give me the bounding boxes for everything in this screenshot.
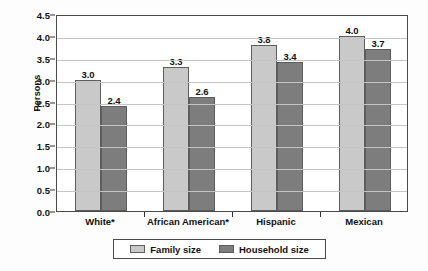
legend-item-family-size: Family size <box>130 244 201 255</box>
gridline <box>57 104 407 105</box>
x-axis-tick-mark <box>232 212 233 217</box>
y-axis-tick-mark <box>50 36 55 37</box>
x-axis-tick-mark <box>320 212 321 217</box>
gridline <box>57 191 407 192</box>
y-axis-tick-label: 3.0 <box>20 75 50 86</box>
gridline <box>57 82 407 83</box>
bar-household-size <box>101 106 127 211</box>
legend-swatch-household-size <box>219 245 234 253</box>
bar-family-size <box>251 45 277 211</box>
legend-item-household-size: Household size <box>219 244 309 255</box>
bars-layer: 3.02.43.32.63.83.44.03.7 <box>57 16 407 211</box>
y-axis-tick-mark <box>50 146 55 147</box>
gridline <box>57 38 407 39</box>
bar-household-size <box>277 62 303 211</box>
x-axis-tick-label: White* <box>85 216 115 227</box>
bar-value-label: 3.7 <box>371 38 384 49</box>
y-axis-tick-label: 2.0 <box>20 119 50 130</box>
y-axis-tick-mark <box>50 212 55 213</box>
y-axis-tick-label: 0.0 <box>20 207 50 218</box>
gridline <box>57 125 407 126</box>
legend-swatch-family-size <box>130 245 145 253</box>
x-axis-tick-label: African American* <box>147 216 229 227</box>
y-axis-tick-mark <box>50 124 55 125</box>
y-axis-tick-label: 4.5 <box>20 10 50 21</box>
legend-label-family-size: Family size <box>150 244 201 255</box>
x-axis-tick-mark <box>144 212 145 217</box>
bar-value-label: 2.6 <box>195 86 208 97</box>
bar-family-size <box>163 67 189 211</box>
bar-value-label: 3.3 <box>169 56 182 67</box>
y-axis-tick-label: 0.5 <box>20 185 50 196</box>
y-axis-tick-label: 4.0 <box>20 31 50 42</box>
bar-value-label: 4.0 <box>345 25 358 36</box>
y-axis-tick-labels: 0.00.51.01.52.02.53.03.54.04.5 <box>20 15 50 212</box>
y-axis-tick-mark <box>50 190 55 191</box>
y-axis-tick-mark <box>50 15 55 16</box>
gridline <box>57 147 407 148</box>
y-axis-tick-mark <box>50 168 55 169</box>
y-axis-tick-label: 3.5 <box>20 53 50 64</box>
y-axis-tick-label: 2.5 <box>20 97 50 108</box>
gridline <box>57 169 407 170</box>
legend-label-household-size: Household size <box>239 244 309 255</box>
x-axis-tick-label: Mexican <box>345 216 383 227</box>
y-axis-tick-label: 1.0 <box>20 163 50 174</box>
bar-household-size <box>189 97 215 211</box>
bar-chart: Persons 0.00.51.01.52.02.53.03.54.04.5 3… <box>0 0 428 271</box>
plot-area: 3.02.43.32.63.83.44.03.7 <box>56 15 408 212</box>
x-axis-tick-labels: White*African American*HispanicMexican <box>56 216 408 232</box>
y-axis-tick-mark <box>50 80 55 81</box>
x-axis-tick-label: Hispanic <box>256 216 296 227</box>
chart-legend: Family size Household size <box>113 239 326 259</box>
y-axis-tick-mark <box>50 102 55 103</box>
y-axis-tick-label: 1.5 <box>20 141 50 152</box>
bar-household-size <box>365 49 391 211</box>
gridline <box>57 60 407 61</box>
bar-value-label: 3.0 <box>81 69 94 80</box>
y-axis-tick-mark <box>50 58 55 59</box>
bar-family-size <box>339 36 365 211</box>
bar-value-label: 3.8 <box>257 34 270 45</box>
